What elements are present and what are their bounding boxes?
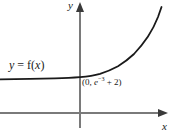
point-label-tail: + 2) (105, 77, 122, 87)
function-label-equals: = (14, 58, 27, 72)
function-label: y = f(x) (9, 58, 44, 73)
axis-label-x: x (162, 120, 167, 132)
function-label-paren-close: ) (40, 58, 44, 72)
x-axis-arrow-icon (158, 109, 168, 117)
exponential-function-graph: y x y = f(x) (0, e−3 + 2) (0, 0, 174, 134)
y-axis-arrow-icon (76, 2, 84, 12)
y-intercept-label: (0, e−3 + 2) (82, 77, 122, 87)
axis-label-y: y (68, 0, 73, 11)
point-label-open: (0, (82, 77, 94, 87)
